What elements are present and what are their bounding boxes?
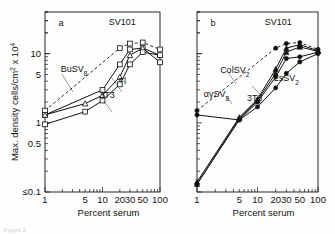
data-point	[83, 109, 88, 114]
x-tick-label-50: 50	[294, 194, 305, 205]
y-axis-label-text: Max. density cells/cm2 x 104	[8, 43, 20, 162]
series-line-ColSV2	[197, 45, 318, 182]
x-tick-label-5: 5	[83, 194, 88, 205]
data-point	[128, 41, 133, 46]
log-log-plot: 10510.5≤0.11510203050100Percent serum151…	[0, 0, 335, 234]
x-tick-label-30: 30	[281, 194, 292, 205]
data-point	[117, 82, 122, 87]
series-label-SV101: SV101	[265, 17, 292, 27]
x-tick-label-5: 5	[237, 194, 242, 205]
x-tick-label-20: 20	[115, 194, 126, 205]
x-tick-label-10: 10	[97, 194, 108, 205]
series-Fl-a	[42, 45, 162, 117]
data-point	[255, 105, 259, 109]
data-point	[158, 53, 163, 58]
data-point	[284, 71, 288, 75]
data-point	[127, 52, 132, 57]
series-LsSV2-b	[195, 50, 320, 186]
figure-container: 10510.5≤0.11510203050100Percent serum151…	[0, 0, 335, 234]
y-axis-label: Max. density cells/cm2 x 104	[8, 43, 20, 162]
series-line-BuSV8	[45, 48, 160, 115]
data-point	[43, 122, 48, 127]
x-tick-label-10: 10	[252, 194, 263, 205]
data-point	[195, 109, 199, 113]
series-line-LsSV2	[197, 52, 318, 184]
series-line-agSV8	[197, 47, 318, 184]
x-tick-label-50: 50	[137, 194, 148, 205]
x-tick-label-100: 100	[310, 194, 326, 205]
y-tick-label-10: 10	[30, 48, 41, 59]
data-point	[117, 46, 122, 51]
series-label-ColSV2: ColSV2	[220, 65, 250, 78]
panel-label-a: a	[58, 18, 63, 28]
series-BuSV8-a	[43, 46, 163, 118]
data-point	[128, 62, 133, 67]
data-point	[140, 50, 145, 55]
series-label-SV101: SV101	[109, 17, 136, 27]
label-leader-line	[104, 101, 112, 112]
panel-label-b: b	[210, 18, 215, 28]
data-point	[237, 118, 241, 122]
data-point	[284, 56, 288, 60]
data-point	[298, 60, 302, 64]
x-tick-label-100: 100	[152, 194, 168, 205]
y-tick-label-0.1: ≤0.1	[23, 186, 41, 197]
series-agSV8-b	[194, 44, 320, 186]
series-label-BuSV8: BuSV8	[61, 64, 88, 77]
data-point	[274, 86, 278, 90]
x-tick-label-1: 1	[42, 194, 47, 205]
data-point	[316, 52, 320, 56]
series-line-Fl	[45, 48, 160, 115]
figure-caption-faint: Figure 2	[4, 227, 26, 233]
y-tick-label-5: 5	[36, 69, 41, 80]
label-leader-line	[62, 74, 73, 92]
data-point	[158, 60, 163, 65]
x-axis-label-b: Percent serum	[233, 207, 295, 218]
data-point	[298, 55, 302, 59]
data-point	[274, 46, 278, 50]
data-point	[82, 101, 87, 106]
data-point	[117, 62, 122, 67]
series-label-agSV8: αγSV8	[204, 89, 230, 102]
y-tick-label-1: 1	[36, 117, 41, 128]
x-tick-label-30: 30	[125, 194, 136, 205]
data-point	[128, 47, 133, 52]
data-point	[140, 40, 145, 45]
x-tick-label-1: 1	[194, 194, 199, 205]
data-point	[158, 47, 163, 52]
data-point	[195, 113, 199, 117]
x-tick-label-20: 20	[270, 194, 281, 205]
series-label-3T3: 3T3	[99, 90, 115, 100]
y-tick-label-0.5: 0.5	[28, 138, 41, 149]
x-axis-label-a: Percent serum	[78, 207, 140, 218]
